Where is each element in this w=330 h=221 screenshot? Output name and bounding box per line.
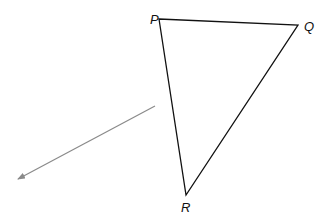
vertex-label-r: R: [181, 200, 190, 215]
vector-arrow: [18, 106, 155, 179]
vertex-label-p: P: [150, 12, 159, 27]
triangle-pqr: [159, 19, 298, 195]
triangle-diagram: P Q R: [0, 0, 330, 221]
vertex-label-q: Q: [304, 19, 314, 34]
